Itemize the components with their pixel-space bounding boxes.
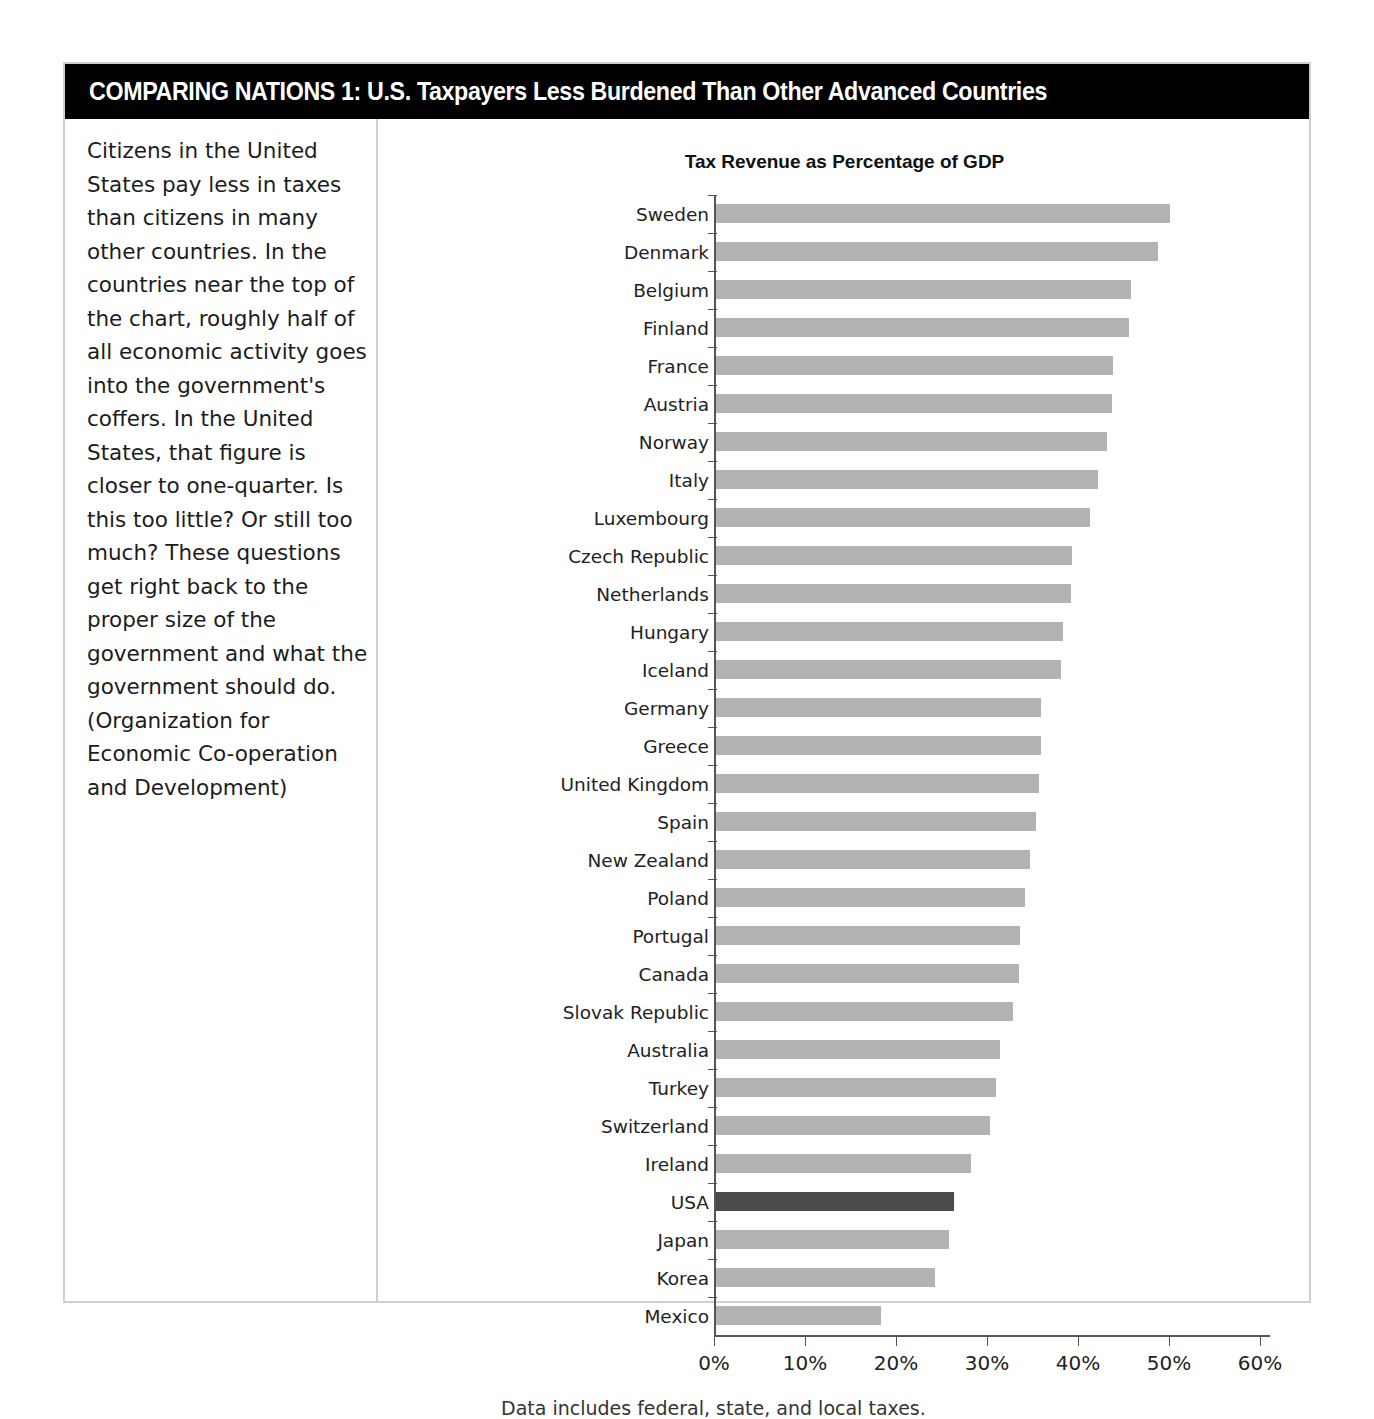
x-axis-tick: [714, 1337, 715, 1346]
x-axis-tick-label: 50%: [1147, 1351, 1191, 1375]
bar-row: Mexico: [378, 1297, 1311, 1335]
figure-frame: COMPARING NATIONS 1: U.S. Taxpayers Less…: [63, 62, 1311, 1303]
bar-row: Iceland: [378, 651, 1311, 689]
chart-footnote: Data includes federal, state, and local …: [501, 1397, 926, 1419]
bar-category-label: Poland: [647, 888, 709, 909]
bar-row: Italy: [378, 461, 1311, 499]
x-axis-tick-label: 30%: [965, 1351, 1009, 1375]
bar-row: Switzerland: [378, 1107, 1311, 1145]
bar-row: Poland: [378, 879, 1311, 917]
x-axis-tick-label: 60%: [1238, 1351, 1282, 1375]
bar-category-label: Canada: [639, 964, 709, 985]
bar: [714, 280, 1131, 299]
x-axis-tick-label: 0%: [698, 1351, 730, 1375]
bar: [714, 736, 1041, 755]
x-axis-tick-label: 10%: [783, 1351, 827, 1375]
x-axis-tick: [987, 1337, 988, 1346]
bar-category-label: Luxembourg: [594, 508, 709, 529]
bar-row: Spain: [378, 803, 1311, 841]
bar: [714, 1154, 971, 1173]
x-axis-tick: [1260, 1337, 1261, 1346]
x-axis-tick: [1169, 1337, 1170, 1346]
y-axis-line: [714, 195, 716, 1335]
figure-title-bar: COMPARING NATIONS 1: U.S. Taxpayers Less…: [65, 64, 1309, 119]
bar-row: Belgium: [378, 271, 1311, 309]
bar-row: Turkey: [378, 1069, 1311, 1107]
bar-row: France: [378, 347, 1311, 385]
bar-row: Sweden: [378, 195, 1311, 233]
bar: [714, 318, 1129, 337]
bar: [714, 204, 1170, 223]
bar-category-label: USA: [671, 1192, 709, 1213]
chart-area: Tax Revenue as Percentage of GDP SwedenD…: [378, 119, 1311, 1303]
bar-category-label: Hungary: [630, 622, 709, 643]
bar-row: Germany: [378, 689, 1311, 727]
sidebar-paragraph: Citizens in the United States pay less i…: [87, 134, 375, 704]
bar-row: Austria: [378, 385, 1311, 423]
bar-row: Netherlands: [378, 575, 1311, 613]
bar-category-label: Belgium: [633, 280, 709, 301]
bar-category-label: Norway: [639, 432, 709, 453]
bar-row: Canada: [378, 955, 1311, 993]
bar: [714, 1116, 990, 1135]
bar-category-label: Spain: [657, 812, 709, 833]
bar: [714, 622, 1063, 641]
bar-category-label: Italy: [669, 470, 709, 491]
bar: [714, 926, 1020, 945]
x-axis-tick-label: 20%: [874, 1351, 918, 1375]
bar-category-label: Turkey: [649, 1078, 709, 1099]
bar-row: Portugal: [378, 917, 1311, 955]
bar: [714, 774, 1039, 793]
bar-category-label: Austria: [644, 394, 709, 415]
bar-category-label: Portugal: [632, 926, 709, 947]
bar-category-label: Australia: [627, 1040, 709, 1061]
bar: [714, 584, 1071, 603]
bar: [714, 812, 1036, 831]
bar-category-label: Finland: [643, 318, 709, 339]
bar: [714, 964, 1019, 983]
x-axis-tick: [1078, 1337, 1079, 1346]
bar: [714, 888, 1025, 907]
bar: [714, 546, 1072, 565]
x-axis-tick: [896, 1337, 897, 1346]
bar: [714, 432, 1107, 451]
bar-row: Czech Republic: [378, 537, 1311, 575]
bar-category-label: New Zealand: [587, 850, 709, 871]
bar: [714, 508, 1090, 527]
bar-category-label: Japan: [657, 1230, 709, 1251]
bar: [714, 698, 1041, 717]
bar: [714, 242, 1158, 261]
bar: [714, 660, 1061, 679]
bar-category-label: Switzerland: [601, 1116, 709, 1137]
bar-row: Norway: [378, 423, 1311, 461]
bar-row: Luxembourg: [378, 499, 1311, 537]
bar-category-label: France: [647, 356, 709, 377]
bar: [714, 1230, 949, 1249]
bar-category-label: Netherlands: [596, 584, 709, 605]
bar-rows: SwedenDenmarkBelgiumFinlandFranceAustria…: [378, 195, 1311, 1335]
x-axis-line: [714, 1335, 1270, 1337]
bar-category-label: United Kingdom: [561, 774, 710, 795]
bar-category-label: Greece: [643, 736, 709, 757]
bar-row: Denmark: [378, 233, 1311, 271]
bar-row: United Kingdom: [378, 765, 1311, 803]
x-axis-tick: [805, 1337, 806, 1346]
bar: [714, 850, 1030, 869]
bar: [714, 1306, 881, 1325]
bar-category-label: Sweden: [636, 204, 709, 225]
bar-row: Greece: [378, 727, 1311, 765]
bar-category-label: Czech Republic: [568, 546, 709, 567]
bar-row: USA: [378, 1183, 1311, 1221]
chart-plot: SwedenDenmarkBelgiumFinlandFranceAustria…: [378, 195, 1311, 1285]
bar-category-label: Slovak Republic: [563, 1002, 709, 1023]
bar-category-label: Denmark: [624, 242, 709, 263]
bar: [714, 1268, 935, 1287]
sidebar-text-column: Citizens in the United States pay less i…: [87, 134, 375, 804]
bar-row: New Zealand: [378, 841, 1311, 879]
bar: [714, 1192, 954, 1211]
bar-category-label: Mexico: [644, 1306, 709, 1327]
bar-row: Japan: [378, 1221, 1311, 1259]
bar: [714, 356, 1113, 375]
bar-row: Finland: [378, 309, 1311, 347]
